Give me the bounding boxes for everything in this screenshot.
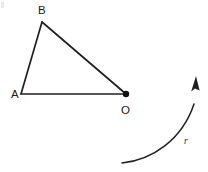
vertex-label-B: B — [38, 4, 46, 16]
scan-artifact-speck — [1, 2, 4, 8]
figure-svg: A B O r — [0, 0, 208, 172]
edge-A-B — [21, 22, 42, 94]
vertex-label-O: O — [121, 104, 130, 116]
edge-B-O — [42, 22, 126, 94]
geometry-figure: A B O r — [0, 0, 208, 172]
vertex-label-A: A — [11, 88, 19, 100]
rotation-arrowhead-icon — [191, 76, 199, 92]
rotation-label-r: r — [184, 136, 188, 146]
rotation-arc — [122, 104, 194, 163]
vertex-dot-O — [123, 91, 129, 97]
